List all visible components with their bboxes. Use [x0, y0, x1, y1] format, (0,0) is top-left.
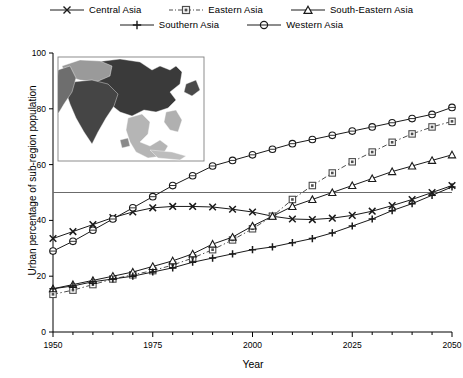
data-point: [70, 238, 77, 245]
data-point: [209, 163, 216, 170]
data-point: [429, 124, 435, 130]
data-point: [369, 149, 375, 155]
data-point: [329, 229, 336, 236]
y-tick-label: 100: [32, 48, 46, 58]
data-point: [369, 215, 376, 222]
data-point: [50, 248, 57, 255]
data-point: [169, 182, 176, 189]
data-point: [429, 111, 436, 118]
data-point: [269, 243, 276, 250]
data-point: [389, 119, 396, 126]
data-point: [189, 250, 196, 257]
data-point: [349, 128, 356, 135]
data-point: [110, 216, 117, 223]
data-point: [249, 152, 256, 159]
data-point: [449, 104, 456, 111]
x-tick-label: 1975: [143, 340, 162, 350]
data-point: [309, 196, 316, 203]
x-axis-title: Year: [53, 358, 453, 370]
x-tick-label: 1950: [44, 340, 63, 350]
data-point: [409, 115, 416, 122]
y-tick-label: 60: [37, 160, 47, 170]
data-point: [349, 182, 356, 189]
inset-map: [56, 57, 204, 161]
data-point: [229, 250, 236, 257]
data-point: [329, 132, 336, 139]
data-point: [289, 239, 296, 246]
data-point: [449, 118, 455, 124]
data-point: [409, 131, 415, 137]
y-tick-label: 80: [37, 104, 47, 114]
y-tick-label: 0: [41, 327, 46, 337]
x-tick-label: 2050: [443, 340, 462, 350]
data-point: [209, 241, 216, 248]
data-point: [289, 140, 296, 147]
data-point: [209, 254, 216, 261]
data-point: [249, 246, 256, 253]
data-point: [189, 172, 196, 179]
data-point: [369, 175, 376, 182]
data-point: [309, 136, 316, 143]
data-point: [448, 183, 455, 190]
data-point: [149, 193, 156, 200]
data-point: [70, 228, 77, 235]
y-tick-label: 20: [37, 271, 47, 281]
data-point: [369, 124, 376, 131]
malay-peninsula-region: [120, 138, 130, 148]
data-point: [169, 257, 176, 264]
data-point: [309, 235, 316, 242]
series-central-asia: [50, 182, 456, 242]
data-point: [448, 151, 455, 158]
data-point: [389, 139, 395, 145]
data-point: [309, 182, 315, 188]
data-point: [269, 146, 276, 153]
x-tick-label: 2000: [243, 340, 262, 350]
data-point: [329, 170, 335, 176]
y-axis-title: Urban percentage of sub-region populatio…: [27, 61, 38, 301]
chart-figure: Central Asia Eastern Asia: [0, 0, 463, 378]
data-point: [130, 205, 137, 212]
x-tick-label: 2025: [343, 340, 362, 350]
data-point: [229, 157, 236, 164]
data-point: [349, 222, 356, 229]
plot-canvas: 02040608010019501975200020252050: [0, 0, 463, 378]
data-point: [289, 203, 296, 210]
y-tick-label: 40: [37, 215, 47, 225]
plot-area: 02040608010019501975200020252050 Urban p…: [0, 0, 463, 378]
data-point: [349, 159, 355, 165]
data-point: [90, 227, 97, 234]
